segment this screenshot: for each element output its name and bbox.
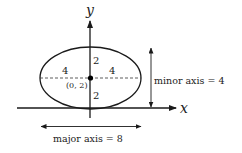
major-axis-label: major axis = 8 (53, 133, 123, 144)
y-axis-label: y (85, 2, 95, 18)
lower-semi-minor-label: 2 (93, 90, 99, 101)
center-point (88, 75, 93, 80)
left-semi-major-label: 4 (62, 65, 68, 76)
right-semi-major-label: 4 (109, 65, 115, 76)
x-axis-label: x (180, 100, 188, 116)
ellipse-diagram: y x 4 4 2 2 (0, 2) minor axis = 4 major … (0, 0, 242, 153)
minor-axis-label: minor axis = 4 (154, 75, 224, 86)
center-label: (0, 2) (66, 81, 88, 90)
upper-semi-minor-label: 2 (93, 55, 99, 66)
